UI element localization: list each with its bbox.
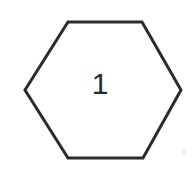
hexagon-figure-svg: 1	[0, 0, 196, 174]
figure-canvas: 1	[0, 0, 196, 174]
scan-speck-artifact	[181, 149, 187, 155]
hexagon-number-label: 1	[92, 67, 109, 100]
